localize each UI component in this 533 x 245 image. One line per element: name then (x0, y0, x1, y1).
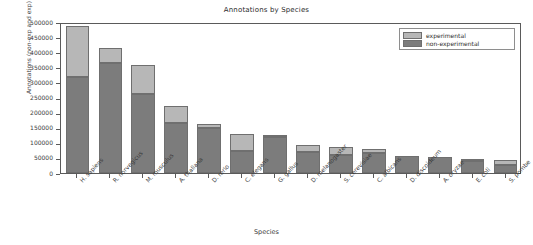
bar-segment-non-experimental (99, 63, 123, 173)
y-tick-label: 150000 (30, 124, 53, 131)
y-tick-label: 100000 (30, 139, 53, 146)
x-tick-mark (208, 174, 209, 178)
y-tick-label: 450000 (30, 34, 53, 41)
bar-group (263, 136, 287, 173)
bar-group (99, 48, 123, 173)
bar-segment-non-experimental (164, 123, 188, 173)
bar-segment-experimental (461, 159, 485, 161)
y-tick-label: 50000 (34, 154, 53, 161)
bar-group (230, 134, 254, 173)
bar-segment-non-experimental (66, 77, 90, 173)
legend-label-experimental: experimental (426, 32, 466, 39)
bar-segment-experimental (263, 135, 287, 137)
y-tick-label: 350000 (30, 64, 53, 71)
x-tick-mark (307, 174, 308, 178)
legend-label-non-experimental: non-experimental (426, 40, 479, 47)
legend-item-experimental: experimental (403, 31, 511, 39)
x-tick-mark (439, 174, 440, 178)
y-tick-label: 400000 (30, 49, 53, 56)
bar-segment-experimental (164, 106, 188, 123)
bar-group (296, 145, 320, 173)
x-tick-mark (406, 174, 407, 178)
bar-segment-non-experimental (197, 128, 221, 173)
x-tick-mark (472, 174, 473, 178)
bar-group (66, 26, 90, 173)
chart-legend: experimental non-experimental (399, 28, 515, 50)
legend-item-non-experimental: non-experimental (403, 39, 511, 47)
x-tick-mark (373, 174, 374, 178)
bar-segment-experimental (296, 145, 320, 152)
bar-segment-experimental (131, 65, 155, 93)
x-axis-label: Species (0, 228, 533, 236)
x-tick-mark (505, 174, 506, 178)
x-tick-mark (175, 174, 176, 178)
bar-group (197, 124, 221, 173)
chart-figure: Annotations by Species Annotations (non-… (0, 0, 533, 245)
y-tick-label: 0 (49, 170, 53, 177)
y-tick-label: 300000 (30, 79, 53, 86)
bar-segment-experimental (66, 26, 90, 77)
x-tick-mark (142, 174, 143, 178)
bar-segment-non-experimental (263, 137, 287, 173)
y-tick-label: 250000 (30, 94, 53, 101)
chart-title: Annotations by Species (0, 6, 533, 14)
x-tick-mark (109, 174, 110, 178)
x-tick-mark (274, 174, 275, 178)
legend-swatch-experimental (403, 32, 422, 39)
y-axis: Annotations (non-exp and exp) 5000004500… (0, 0, 60, 245)
legend-swatch-non-experimental (403, 40, 422, 47)
x-tick-mark (340, 174, 341, 178)
x-tick-mark (76, 174, 77, 178)
bar-segment-experimental (197, 124, 221, 128)
y-tick-label: 200000 (30, 109, 53, 116)
x-axis: H. sapiensR. norvegicusM. musculusA. tha… (60, 174, 521, 234)
x-tick-mark (241, 174, 242, 178)
bar-segment-experimental (230, 134, 254, 151)
bar-segment-experimental (494, 160, 518, 165)
bar-segment-experimental (99, 48, 123, 63)
y-tick-label: 500000 (30, 19, 53, 26)
